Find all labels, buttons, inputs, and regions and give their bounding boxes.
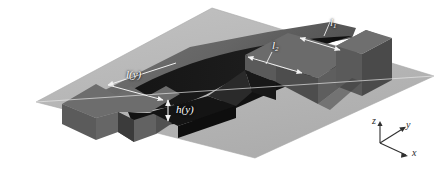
figure-canvas: l(y) h(y) l2 l1 z y x <box>0 0 440 172</box>
axis-z-arrow <box>377 121 382 126</box>
axis-triad <box>377 121 408 158</box>
axis-x-arrow <box>401 153 408 158</box>
axis-label-x: x <box>412 148 416 158</box>
axis-label-z: z <box>372 116 376 126</box>
axis-y-arrow <box>399 127 406 132</box>
isometric-scene <box>0 0 440 172</box>
axis-label-y: y <box>406 120 410 130</box>
axis-y-line <box>380 128 404 143</box>
